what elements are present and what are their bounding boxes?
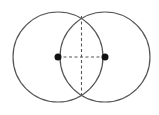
two-intersecting-circles-diagram [0, 0, 159, 115]
left-center-dot [55, 54, 62, 61]
right-center-dot [102, 54, 109, 61]
